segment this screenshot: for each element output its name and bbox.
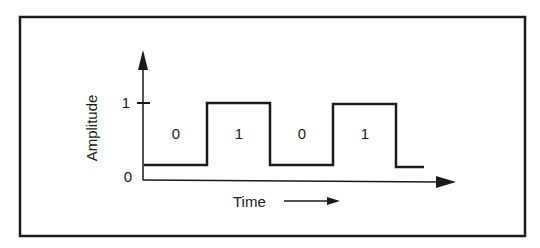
y-tick-label-1: 1 [122, 94, 130, 111]
x-axis-line [143, 180, 440, 182]
x-axis-label: Time [233, 193, 266, 210]
y-axis-label: Amplitude [83, 95, 100, 162]
bit-label-1: 0 [172, 125, 180, 142]
square-wave-signal [144, 103, 424, 167]
time-arrow-icon [327, 197, 340, 205]
signal-diagram: 1 0 Amplitude 0 1 0 1 Time [0, 0, 540, 248]
bit-label-2: 1 [235, 125, 243, 142]
x-axis-arrowhead-icon [436, 176, 456, 188]
bit-label-4: 1 [361, 125, 369, 142]
bit-label-3: 0 [298, 125, 306, 142]
y-axis-arrowhead-icon [138, 50, 148, 70]
y-tick-label-0: 0 [124, 168, 132, 185]
